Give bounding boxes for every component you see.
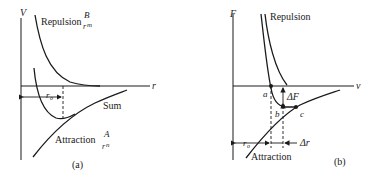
attraction-label: Attraction xyxy=(251,151,292,162)
attraction-formula-numerator: A xyxy=(103,129,110,139)
delta-r-label: Δr xyxy=(299,137,310,148)
r-axis-label: r xyxy=(152,80,156,91)
v-axis-label: v xyxy=(356,80,361,91)
repulsion-label: Repulsion xyxy=(41,16,82,27)
f-axis-label: F xyxy=(229,8,237,19)
point-b-label: b xyxy=(275,109,280,119)
point-c xyxy=(294,105,298,109)
sum-curve xyxy=(34,68,75,119)
sum-label: Sum xyxy=(103,100,122,111)
attraction-formula-exponent: n xyxy=(106,141,110,149)
repulsion-formula-numerator: B xyxy=(84,10,90,20)
r0-subscript: o xyxy=(247,143,250,149)
delta-f-label: ΔF xyxy=(286,91,300,102)
panel-a: V r Repulsion B r m Sum Attraction A r n… xyxy=(20,7,156,171)
attraction-label: Attraction xyxy=(55,134,96,145)
repulsion-formula-exponent: m xyxy=(87,21,92,29)
panel-b: F v Repulsion Attraction a b c ΔF Δr r o… xyxy=(229,8,361,168)
point-a-label: a xyxy=(263,89,268,99)
r0-subscript: o xyxy=(50,95,53,101)
caption-b: (b) xyxy=(334,156,346,168)
diagram-canvas: V r Repulsion B r m Sum Attraction A r n… xyxy=(0,0,378,178)
repulsion-label: Repulsion xyxy=(270,11,311,22)
v-axis-label: V xyxy=(20,7,28,18)
caption-a: (a) xyxy=(72,159,83,171)
point-c-label: c xyxy=(300,109,304,119)
